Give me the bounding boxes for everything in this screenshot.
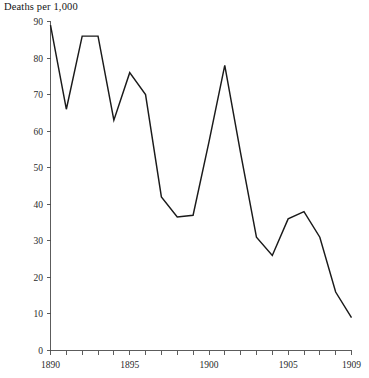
y-tick-marks	[47, 22, 51, 351]
x-tick-label-1890: 1890	[41, 360, 60, 370]
x-tick-labels: 1890 1895 1900 1905 1909	[41, 360, 361, 370]
plot-area: 90 80 70 60 50 40 30 20 10 0	[0, 0, 369, 378]
y-tick-label-80: 80	[34, 54, 44, 64]
line-chart: Deaths per 1,000 90 80 70 60 50 40 3	[0, 0, 369, 378]
y-tick-label-40: 40	[34, 200, 44, 210]
y-tick-label-20: 20	[34, 273, 44, 283]
x-tick-label-1895: 1895	[120, 360, 139, 370]
y-tick-label-0: 0	[38, 346, 43, 356]
y-tick-label-50: 50	[34, 163, 44, 173]
y-tick-label-10: 10	[34, 309, 44, 319]
y-tick-label-90: 90	[34, 17, 44, 27]
data-series-line	[51, 25, 352, 317]
x-tick-label-1900: 1900	[200, 360, 219, 370]
y-tick-label-70: 70	[34, 90, 44, 100]
y-tick-label-60: 60	[34, 127, 44, 137]
x-tick-label-1909: 1909	[342, 360, 361, 370]
x-tick-label-1905: 1905	[279, 360, 298, 370]
x-tick-marks	[51, 351, 352, 356]
y-tick-labels: 90 80 70 60 50 40 30 20 10 0	[34, 17, 44, 356]
y-tick-label-30: 30	[34, 236, 44, 246]
